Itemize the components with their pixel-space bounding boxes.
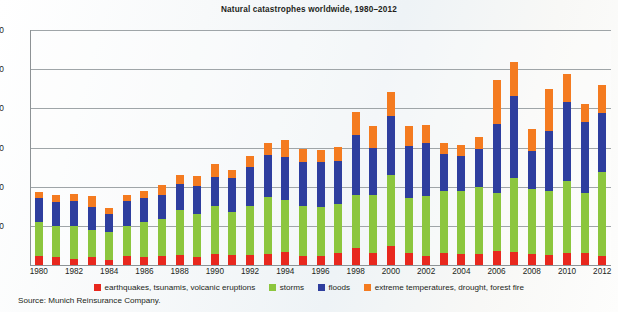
bar-segment-flood-1997: [334, 161, 342, 204]
bar-segment-temp-1983: [88, 196, 96, 207]
bar-segment-flood-2011: [581, 122, 589, 193]
bar-segment-temp-1985: [123, 195, 131, 202]
bar-segment-eq-1984: [105, 260, 113, 265]
bar-segment-flood-1991: [228, 178, 236, 212]
x-tick-label-2012: 2012: [593, 267, 611, 276]
bar-segment-eq-1985: [123, 256, 131, 265]
legend-item-2: floods: [318, 283, 350, 292]
bar-segment-flood-1980: [35, 198, 43, 222]
bar-segment-temp-2004: [457, 145, 465, 157]
bar-segment-flood-2006: [493, 124, 501, 193]
bar-segment-temp-2002: [422, 125, 430, 143]
bar-segment-eq-2003: [440, 253, 448, 265]
chart-title: Natural catastrophes worldwide, 1980–201…: [0, 5, 618, 14]
bar-1984: [105, 208, 113, 265]
bar-segment-eq-1997: [334, 253, 342, 265]
bar-1992: [246, 156, 254, 265]
bar-segment-storm-1989: [193, 214, 201, 257]
bar-segment-temp-2003: [440, 143, 448, 155]
bar-segment-flood-2012: [598, 113, 606, 172]
x-axis-tick-labels: 1980198219841986198819901992199419961998…: [30, 267, 611, 279]
bar-1998: [352, 112, 360, 265]
bar-segment-temp-1991: [228, 170, 236, 178]
bar-1990: [211, 164, 219, 265]
bar-segment-storm-2005: [475, 187, 483, 255]
bar-2006: [493, 80, 501, 265]
x-tick-label-1982: 1982: [65, 267, 83, 276]
bar-segment-storm-1990: [211, 206, 219, 254]
bar-segment-temp-1996: [317, 150, 325, 162]
y-tick-label-400: 400: [0, 182, 4, 192]
x-tick-label-2002: 2002: [417, 267, 435, 276]
bar-2003: [440, 143, 448, 265]
bar-segment-flood-2002: [422, 143, 430, 197]
bar-segment-eq-1981: [52, 257, 60, 265]
bar-segment-flood-2000: [387, 116, 395, 175]
bar-segment-flood-1983: [88, 207, 96, 230]
bar-segment-flood-2009: [545, 131, 553, 191]
bar-segment-temp-1989: [193, 176, 201, 186]
bar-segment-flood-1995: [299, 162, 307, 206]
x-tick-label-1992: 1992: [241, 267, 259, 276]
x-tick-label-2006: 2006: [487, 267, 505, 276]
bar-segment-storm-2011: [581, 193, 589, 254]
x-tick-label-1990: 1990: [206, 267, 224, 276]
bar-1991: [228, 170, 236, 265]
legend-swatch-icon-3: [364, 284, 371, 291]
bar-1995: [299, 149, 307, 265]
bar-1993: [264, 143, 272, 265]
bar-1982: [70, 194, 78, 265]
bar-segment-flood-1984: [105, 214, 113, 232]
chart-figure: Natural catastrophes worldwide, 1980–201…: [0, 0, 618, 312]
bar-segment-eq-1991: [228, 255, 236, 265]
bar-segment-eq-2004: [457, 254, 465, 265]
bar-segment-flood-1999: [369, 148, 377, 196]
bar-segment-storm-1980: [35, 222, 43, 256]
bar-segment-storm-1993: [264, 197, 272, 254]
bar-segment-temp-2000: [387, 92, 395, 116]
legend-label-2: floods: [329, 283, 351, 292]
bar-segment-flood-1990: [211, 177, 219, 206]
bar-segment-temp-1988: [176, 175, 184, 184]
bar-segment-temp-2008: [528, 129, 536, 152]
bar-segment-eq-1986: [140, 257, 148, 265]
bar-segment-flood-1982: [70, 201, 78, 225]
bar-segment-flood-2008: [528, 151, 536, 188]
bar-segment-temp-2011: [581, 104, 589, 122]
bar-segment-flood-1989: [193, 186, 201, 214]
bar-segment-flood-1994: [281, 157, 289, 200]
bar-segment-storm-2002: [422, 196, 430, 256]
bar-segment-storm-1981: [52, 226, 60, 257]
bar-1989: [193, 176, 201, 265]
bar-segment-flood-1987: [158, 195, 166, 219]
bar-segment-storm-2012: [598, 172, 606, 256]
x-tick-label-1998: 1998: [347, 267, 365, 276]
bar-1994: [281, 140, 289, 265]
bar-segment-flood-1996: [317, 162, 325, 207]
bar-segment-storm-2007: [510, 178, 518, 252]
bar-segment-flood-2004: [457, 156, 465, 190]
bar-segment-temp-2010: [563, 74, 571, 102]
y-tick-label-600: 600: [0, 143, 4, 153]
bar-segment-flood-2005: [475, 149, 483, 186]
bar-2005: [475, 137, 483, 265]
x-tick-label-1984: 1984: [100, 267, 118, 276]
bar-segment-eq-1980: [35, 256, 43, 265]
bar-segment-eq-2011: [581, 253, 589, 265]
bar-2007: [510, 62, 518, 265]
legend-label-1: storms: [280, 283, 304, 292]
bar-segment-temp-1999: [369, 126, 377, 148]
bar-1987: [158, 185, 166, 265]
bar-segment-flood-2001: [405, 146, 413, 199]
bar-segment-temp-2001: [405, 126, 413, 146]
bar-segment-storm-1992: [246, 206, 254, 255]
bar-segment-temp-1986: [140, 191, 148, 199]
bar-segment-storm-1997: [334, 204, 342, 253]
bar-segment-eq-1983: [88, 257, 96, 265]
bar-segment-storm-1991: [228, 212, 236, 255]
x-tick-label-1986: 1986: [135, 267, 153, 276]
bar-2004: [457, 145, 465, 265]
bar-segment-eq-2009: [545, 255, 553, 265]
bar-segment-storm-1982: [70, 226, 78, 259]
bar-segment-storm-2001: [405, 198, 413, 253]
